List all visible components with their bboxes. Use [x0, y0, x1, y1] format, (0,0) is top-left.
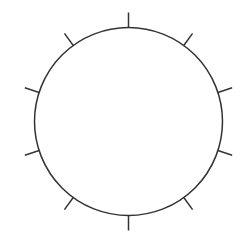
tick-mark [25, 151, 39, 156]
tick-mark [184, 33, 193, 45]
tick-mark [64, 33, 73, 45]
tick-mark [184, 198, 193, 210]
tick-mark [64, 198, 73, 210]
tick-marks [25, 13, 232, 231]
tick-mark [218, 151, 232, 156]
circle-diagram [0, 0, 252, 250]
tick-mark [25, 88, 39, 93]
main-circle [35, 28, 223, 216]
tick-mark [218, 88, 232, 93]
